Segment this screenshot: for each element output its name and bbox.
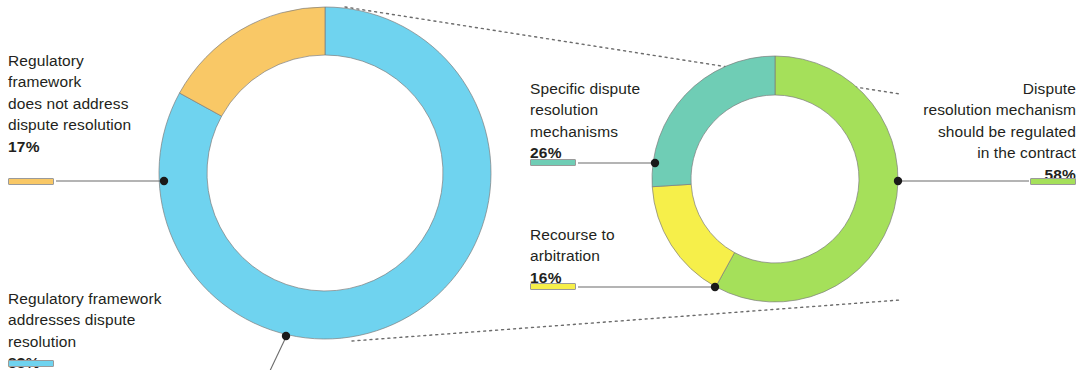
- label-percent: 17%: [8, 136, 193, 158]
- label-text: Regulatory framework does not address di…: [8, 52, 131, 134]
- leader-line-blue-d: [258, 337, 286, 370]
- label-recourse-arbitration: Recourse to arbitration 16%: [530, 202, 680, 310]
- slice-orange-17[interactable]: [180, 7, 325, 116]
- left-donut: [159, 7, 491, 339]
- slice-teal-26[interactable]: [652, 56, 775, 187]
- label-text: Specific dispute resolution mechanisms: [530, 80, 640, 140]
- label-regulatory-not-address: Regulatory framework does not address di…: [8, 28, 193, 179]
- figure-canvas: Regulatory framework does not address di…: [0, 0, 1082, 370]
- legend-swatch-teal: [530, 159, 576, 166]
- legend-swatch-blue: [8, 360, 54, 367]
- label-text: Dispute resolution mechanism should be r…: [923, 80, 1076, 162]
- legend-swatch-green: [1030, 178, 1076, 185]
- legend-swatch-orange: [8, 178, 54, 185]
- legend-swatch-yellow: [530, 283, 576, 290]
- label-regulatory-addresses: Regulatory framework addresses dispute r…: [8, 266, 208, 370]
- label-text: Regulatory framework addresses dispute r…: [8, 290, 162, 350]
- label-text: Recourse to arbitration: [530, 226, 615, 265]
- leader-dot-yellow: [711, 283, 719, 291]
- leader-dot-blue: [282, 332, 290, 340]
